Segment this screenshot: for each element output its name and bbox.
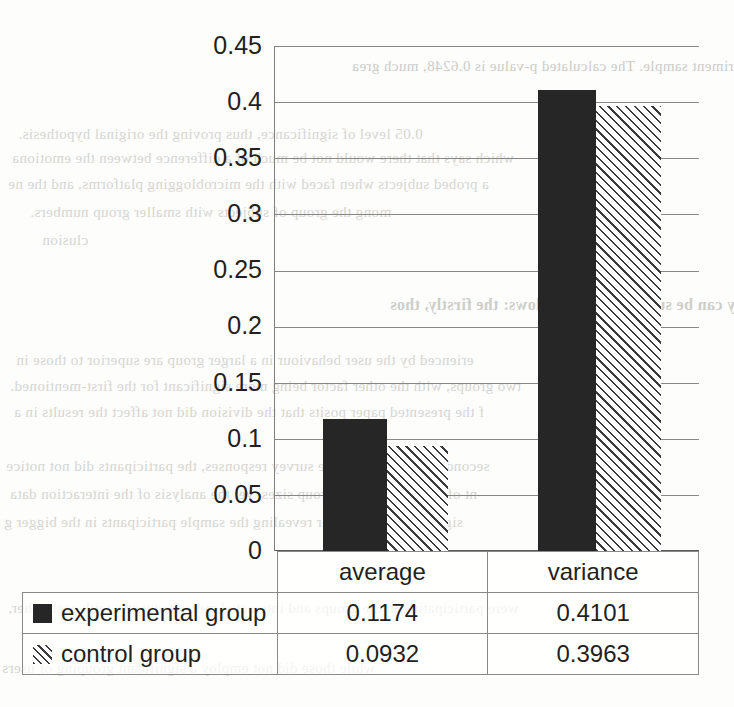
table-corner-cell	[23, 552, 278, 593]
bar-chart: 0.45 0.4 0.35 0.3 0.25 0.2 0.15 0.1 0.05…	[0, 0, 734, 707]
legend-hatched-square-icon	[33, 645, 52, 664]
y-axis-tick-label: 0.15	[180, 370, 262, 395]
legend-item-control-group: control group	[23, 634, 278, 675]
gridline	[275, 46, 699, 47]
y-axis-tick-label: 0.3	[180, 201, 262, 226]
cell-experimental-variance: 0.4101	[488, 593, 699, 634]
y-axis-tick-label: 0.2	[180, 313, 262, 338]
bar-control-average	[387, 446, 448, 551]
legend-item-experimental-group: experimental group	[23, 593, 278, 634]
y-axis-tick-label: 0.25	[180, 257, 262, 282]
legend-label: experimental group	[61, 599, 266, 626]
table-row: experimental group 0.1174 0.4101	[23, 593, 699, 634]
y-axis-tick-label: 0.1	[180, 426, 262, 451]
y-axis-tick-label: 0.4	[180, 89, 262, 114]
table-header-row: average variance	[23, 552, 699, 593]
cell-control-average: 0.0932	[277, 634, 488, 675]
y-axis-tick-label: 0.35	[180, 145, 262, 170]
y-axis-tick-label: 0.05	[180, 482, 262, 507]
legend-label: control group	[61, 640, 201, 667]
bar-control-variance	[596, 106, 661, 551]
legend-solid-square-icon	[33, 604, 52, 623]
bar-experimental-variance	[538, 90, 596, 551]
table-row: control group 0.0932 0.3963	[23, 634, 699, 675]
chart-data-table: average variance experimental group 0.11…	[22, 551, 699, 675]
column-header-variance: variance	[488, 552, 699, 593]
plot-area	[274, 46, 699, 551]
cell-control-variance: 0.3963	[488, 634, 699, 675]
bar-experimental-average	[323, 419, 387, 551]
gridline	[275, 102, 699, 103]
y-axis-tick-label: 0.45	[180, 33, 262, 58]
column-header-average: average	[277, 552, 488, 593]
cell-experimental-average: 0.1174	[277, 593, 488, 634]
